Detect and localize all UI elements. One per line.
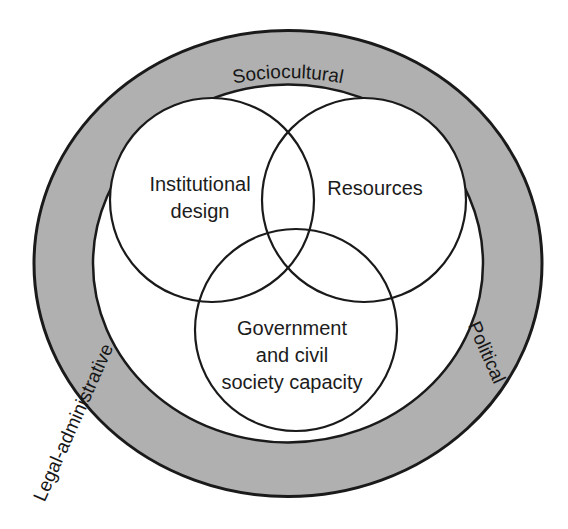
venn-label-government-capacity-line2: and civil — [256, 344, 328, 366]
venn-ring-diagram: Sociocultural Political Legal-administra… — [0, 0, 568, 529]
venn-label-resources: Resources — [327, 177, 423, 199]
diagram-canvas: Sociocultural Political Legal-administra… — [0, 0, 568, 529]
venn-label-institutional-design-line2: design — [171, 200, 230, 222]
venn-label-resources-line1: Resources — [327, 177, 423, 199]
venn-label-government-capacity-line3: society capacity — [221, 371, 362, 393]
venn-label-government-capacity-line1: Government — [237, 317, 347, 339]
venn-label-institutional-design-line1: Institutional — [149, 173, 250, 195]
